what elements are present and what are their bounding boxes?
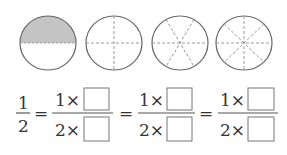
lhs-denominator: 2	[18, 118, 29, 135]
numerator-box-3	[248, 88, 274, 110]
fraction-2-denominator: 2×	[139, 122, 164, 139]
fraction-2-numerator: 1×	[139, 92, 164, 109]
fraction-3-denominator: 2×	[220, 122, 245, 139]
denominator-box-1	[84, 117, 109, 141]
numerator-box-2	[167, 88, 192, 110]
lhs-numerator: 1	[18, 95, 29, 112]
quarters-circle	[86, 16, 142, 70]
denominator-box-3	[248, 117, 274, 141]
eighths-circle	[216, 16, 272, 70]
half-circle	[20, 16, 76, 70]
fraction-3-numerator: 1×	[220, 92, 245, 109]
denominator-box-2	[167, 117, 192, 141]
fraction-1-numerator: 1×	[55, 92, 80, 109]
equals-sign-2: =	[119, 105, 133, 122]
equals-sign-3: =	[199, 105, 213, 122]
equals-sign-1: =	[34, 105, 48, 122]
sixths-circle	[152, 16, 208, 70]
numerator-box-1	[84, 88, 109, 110]
fraction-1-denominator: 2×	[55, 122, 80, 139]
